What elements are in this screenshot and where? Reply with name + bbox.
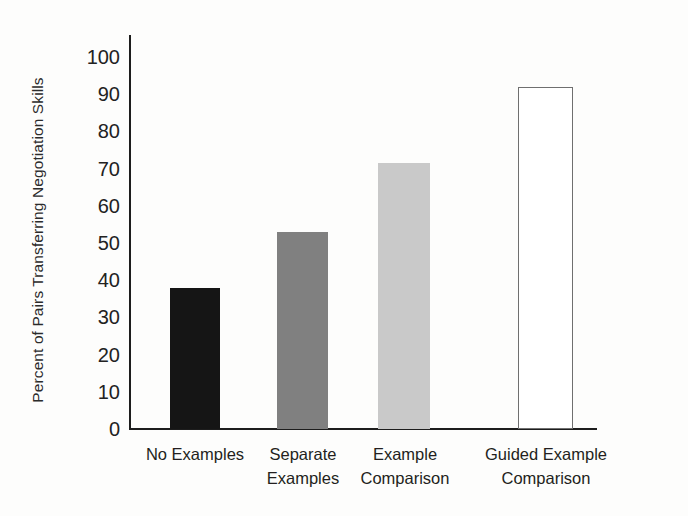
y-tick-label: 70: [64, 159, 120, 179]
bar: [518, 87, 573, 429]
y-tick-label: 100: [64, 47, 120, 67]
y-tick-label: 40: [64, 270, 120, 290]
y-axis-line: [129, 35, 131, 430]
y-tick-label: 0: [64, 419, 120, 439]
bar: [277, 232, 328, 429]
y-tick-label: 30: [64, 307, 120, 327]
x-category-label: Guided Example Comparison: [450, 442, 642, 490]
y-tick-label: 60: [64, 196, 120, 216]
y-tick-label: 20: [64, 345, 120, 365]
bar: [170, 288, 220, 429]
chart-figure: Percent of Pairs Transferring Negotiatio…: [0, 0, 688, 516]
y-tick-label: 10: [64, 382, 120, 402]
y-tick-label: 80: [64, 121, 120, 141]
y-tick-label: 90: [64, 84, 120, 104]
y-tick-label: 50: [64, 233, 120, 253]
y-axis-title: Percent of Pairs Transferring Negotiatio…: [29, 40, 47, 440]
y-axis-tick-labels: 0102030405060708090100: [52, 0, 120, 516]
bar: [378, 163, 430, 429]
